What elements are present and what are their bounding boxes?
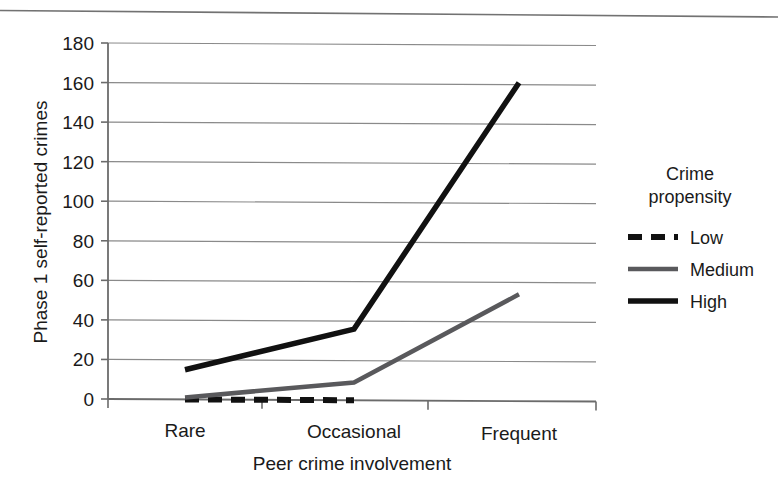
y-axis-ticks bbox=[101, 43, 108, 399]
legend: Crime propensity Low Medium High bbox=[628, 164, 754, 312]
y-axis-tick-label: 60 bbox=[73, 270, 94, 291]
legend-label-low: Low bbox=[690, 228, 724, 248]
y-axis-tick-labels: 020406080100120140160180 bbox=[62, 33, 94, 410]
gridline bbox=[108, 162, 596, 165]
legend-label-medium: Medium bbox=[690, 260, 754, 280]
gridline bbox=[108, 359, 596, 362]
legend-label-high: High bbox=[690, 292, 727, 312]
x-axis-title: Peer crime involvement bbox=[253, 453, 452, 474]
gridline bbox=[108, 122, 596, 125]
series-line-medium bbox=[185, 294, 519, 397]
legend-entry-medium[interactable]: Medium bbox=[628, 260, 754, 280]
y-axis-tick-label: 40 bbox=[73, 310, 94, 331]
gridline bbox=[108, 201, 596, 204]
legend-entry-low[interactable]: Low bbox=[628, 228, 724, 248]
grid-lines bbox=[108, 43, 596, 362]
y-axis-title: Phase 1 self-reported crimes bbox=[30, 101, 51, 344]
legend-title-line2: propensity bbox=[648, 187, 731, 207]
gridline bbox=[108, 320, 596, 323]
gridline bbox=[108, 241, 596, 244]
line-chart: 020406080100120140160180 Rare Occasional… bbox=[0, 0, 778, 477]
legend-entry-high[interactable]: High bbox=[628, 292, 727, 312]
chart-page: 020406080100120140160180 Rare Occasional… bbox=[0, 0, 778, 477]
y-axis-tick-label: 0 bbox=[83, 389, 94, 410]
gridline bbox=[108, 83, 596, 86]
y-axis-tick-label: 180 bbox=[62, 33, 94, 54]
series-line-high bbox=[185, 83, 519, 370]
x-category-label-occasional: Occasional bbox=[307, 421, 401, 442]
gridline bbox=[108, 280, 596, 283]
legend-title-line1: Crime bbox=[666, 164, 714, 184]
y-axis-tick-label: 140 bbox=[62, 112, 94, 133]
y-axis-tick-label: 160 bbox=[62, 73, 94, 94]
x-category-label-rare: Rare bbox=[164, 420, 205, 441]
y-axis-tick-label: 80 bbox=[73, 231, 94, 252]
x-category-label-frequent: Frequent bbox=[481, 423, 558, 444]
y-axis-tick-label: 20 bbox=[73, 349, 94, 370]
gridline bbox=[108, 43, 596, 46]
y-axis-tick-label: 120 bbox=[62, 152, 94, 173]
y-axis-tick-label: 100 bbox=[62, 191, 94, 212]
